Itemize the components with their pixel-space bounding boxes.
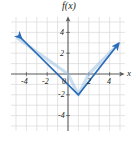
xtick-label--2: -2 — [42, 78, 49, 86]
xtick-label--4: -4 — [21, 78, 28, 86]
function-graph-figure: f(x) — [0, 0, 138, 142]
ytick-label-2: 2 — [60, 50, 64, 58]
graph-canvas — [0, 0, 138, 142]
ytick-label--4: -4 — [58, 112, 65, 120]
ytick-label-4: 4 — [60, 29, 64, 37]
xtick-label-2: 2 — [87, 78, 91, 86]
xtick-label-0: 0 — [62, 78, 66, 86]
x-axis-label: x — [127, 68, 131, 78]
xtick-label-4: 4 — [107, 78, 111, 86]
ytick-label--2: -2 — [58, 91, 65, 99]
